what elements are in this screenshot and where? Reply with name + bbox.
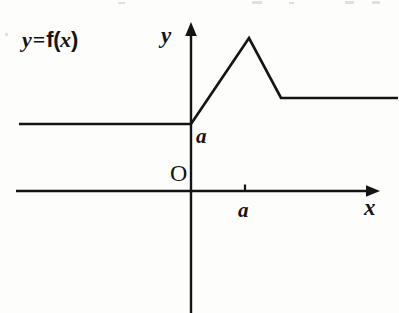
function-name-label: y=f(x) <box>22 29 78 51</box>
function-graph-figure: y=f(x) y x O a a <box>0 0 399 313</box>
function-name-y: y <box>22 27 32 52</box>
x-tick-value-label: a <box>238 200 249 221</box>
origin-label: O <box>170 161 187 185</box>
function-name-equals: = <box>32 27 47 52</box>
function-name-close-paren: ) <box>71 27 78 52</box>
function-name-x: x <box>60 27 71 52</box>
y-intercept-value-label: a <box>196 126 207 147</box>
x-axis <box>16 185 380 197</box>
function-name-open-paren: ( <box>53 27 60 52</box>
y-axis-arrowhead-icon <box>185 22 197 36</box>
y-axis-label: y <box>161 24 171 47</box>
x-axis-label: x <box>364 196 376 219</box>
